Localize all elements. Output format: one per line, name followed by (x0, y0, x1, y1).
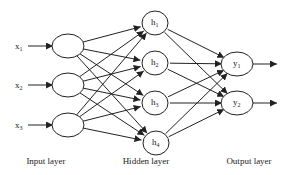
node-x3 (52, 113, 84, 137)
edge-x3-h2 (79, 71, 144, 117)
input-label-x1: x1 (15, 41, 23, 52)
node-x2 (52, 73, 84, 97)
node-h2: h2 (142, 51, 168, 75)
layer-label-1: Hidden layer (123, 156, 170, 166)
neural-network-diagram: h1h2h3h4y1y2 x1x2x3Input layerHidden lay… (0, 0, 289, 175)
edge-x3-h4 (83, 128, 142, 140)
nodes: h1h2h3h4y1y2 (52, 11, 253, 155)
input-label-x2: x2 (15, 80, 23, 91)
layer-label-0: Input layer (26, 156, 65, 166)
edge-x3-h1 (76, 33, 146, 115)
edge-h2-y1 (170, 63, 222, 64)
layer-label-2: Output layer (226, 156, 271, 166)
node-y1: y1 (221, 52, 253, 76)
node-x1 (52, 34, 84, 58)
input-label-x3: x3 (15, 120, 23, 131)
node-h3: h3 (142, 91, 168, 115)
node-h4: h4 (143, 131, 169, 155)
edge-x2-h1 (79, 31, 144, 77)
node-h1: h1 (142, 11, 168, 35)
node-y2: y2 (221, 91, 253, 115)
